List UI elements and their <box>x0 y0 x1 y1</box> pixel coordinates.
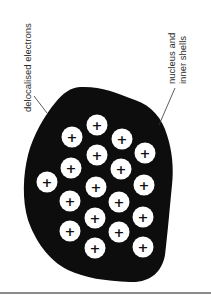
plus-icon: + <box>117 132 128 147</box>
plus-icon: + <box>92 118 103 133</box>
positive-ion: + <box>60 191 81 212</box>
plus-icon: + <box>114 225 125 240</box>
metallic-bonding-diagram: ++++++++++++++++++ delocalised electrons… <box>0 0 211 295</box>
plus-icon: + <box>116 162 127 177</box>
positive-ion: + <box>37 172 58 193</box>
positive-ion: + <box>134 175 155 196</box>
plus-icon: + <box>66 161 77 176</box>
plus-icon: + <box>140 146 151 161</box>
positive-ion: + <box>62 127 83 148</box>
positive-ion: + <box>133 237 154 258</box>
positive-ion: + <box>109 222 130 243</box>
positive-ion: + <box>109 192 130 213</box>
positive-ion: + <box>87 145 108 166</box>
plus-icon: + <box>92 148 103 163</box>
plus-icon: + <box>65 224 76 239</box>
positive-ion: + <box>60 221 81 242</box>
positive-ion: + <box>61 158 82 179</box>
positive-ion: + <box>85 208 106 229</box>
plus-icon: + <box>139 178 150 193</box>
plus-icon: + <box>114 195 125 210</box>
plus-icon: + <box>42 175 53 190</box>
plus-icon: + <box>67 130 78 145</box>
label-delocalised-electrons: delocalised electrons <box>22 23 33 112</box>
plus-icon: + <box>90 211 101 226</box>
positive-ion: + <box>135 143 156 164</box>
positive-ion: + <box>85 238 106 259</box>
positive-ion: + <box>86 177 107 198</box>
label-inner-shells: inner shells <box>177 36 188 84</box>
positive-ion: + <box>111 159 132 180</box>
ions-pointer-line <box>159 88 175 125</box>
bottom-divider <box>0 292 211 294</box>
plus-icon: + <box>138 210 149 225</box>
plus-icon: + <box>91 180 102 195</box>
positive-ion: + <box>112 129 133 150</box>
plus-icon: + <box>65 194 76 209</box>
positive-ion: + <box>87 115 108 136</box>
plus-icon: + <box>138 240 149 255</box>
positive-ion: + <box>133 207 154 228</box>
electrons-pointer-line <box>34 96 47 113</box>
plus-icon: + <box>90 241 101 256</box>
label-nucleus-and: nucleus and <box>166 33 177 84</box>
